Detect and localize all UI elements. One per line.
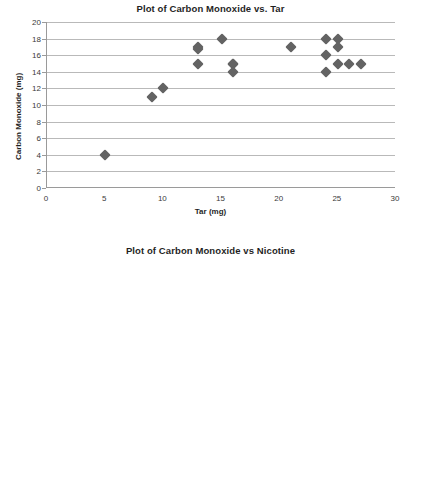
y-axis-tick-label: 6 bbox=[1, 134, 41, 143]
data-point-marker bbox=[99, 149, 110, 160]
y-axis-tick-mark bbox=[42, 72, 46, 73]
y-axis-tick-label: 20 bbox=[1, 18, 41, 27]
y-axis-tick-label: 16 bbox=[1, 51, 41, 60]
y-axis-tick-mark bbox=[42, 155, 46, 156]
x-axis-tick-label: 10 bbox=[147, 194, 177, 203]
data-point-marker bbox=[321, 66, 332, 77]
data-point-marker bbox=[146, 91, 157, 102]
y-axis-tick-label: 18 bbox=[1, 34, 41, 43]
gridline bbox=[47, 55, 395, 56]
chart1-x-axis-title: Tar (mg) bbox=[0, 207, 421, 216]
gridline bbox=[47, 22, 395, 23]
data-point-marker bbox=[332, 58, 343, 69]
y-axis-tick-label: 14 bbox=[1, 67, 41, 76]
y-axis-tick-label: 4 bbox=[1, 150, 41, 159]
chart2-title: Plot of Carbon Monoxide vs Nicotine bbox=[0, 245, 421, 256]
x-axis-tick-label: 20 bbox=[264, 194, 294, 203]
data-point-marker bbox=[355, 58, 366, 69]
gridline bbox=[47, 88, 395, 89]
data-point-marker bbox=[344, 58, 355, 69]
y-axis-tick-mark bbox=[42, 39, 46, 40]
chart1-plot-area bbox=[46, 22, 395, 188]
y-axis-tick-label: 8 bbox=[1, 117, 41, 126]
y-axis-tick-mark bbox=[42, 138, 46, 139]
data-point-marker bbox=[193, 58, 204, 69]
chart-carbon-monoxide-vs-tar: Plot of Carbon Monoxide vs. Tar Tar (mg)… bbox=[0, 0, 421, 240]
gridline bbox=[47, 105, 395, 106]
y-axis-tick-mark bbox=[42, 122, 46, 123]
y-axis-tick-label: 0 bbox=[1, 184, 41, 193]
y-axis-tick-mark bbox=[42, 88, 46, 89]
y-axis-tick-mark bbox=[42, 22, 46, 23]
gridline bbox=[47, 72, 395, 73]
gridline bbox=[47, 138, 395, 139]
data-point-marker bbox=[216, 33, 227, 44]
data-point-marker bbox=[321, 33, 332, 44]
chart1-title: Plot of Carbon Monoxide vs. Tar bbox=[0, 3, 421, 14]
data-point-marker bbox=[158, 83, 169, 94]
gridline bbox=[47, 122, 395, 123]
y-axis-tick-label: 10 bbox=[1, 101, 41, 110]
chart-carbon-monoxide-vs-nicotine: Plot of Carbon Monoxide vs Nicotine Nico… bbox=[0, 240, 421, 487]
y-axis-tick-mark bbox=[42, 55, 46, 56]
data-point-marker bbox=[286, 41, 297, 52]
x-axis-tick-label: 15 bbox=[206, 194, 236, 203]
x-axis-tick-label: 0 bbox=[31, 194, 61, 203]
y-axis-tick-label: 12 bbox=[1, 84, 41, 93]
y-axis-tick-label: 2 bbox=[1, 167, 41, 176]
x-axis-tick-label: 30 bbox=[380, 194, 410, 203]
x-axis-tick-label: 5 bbox=[89, 194, 119, 203]
data-point-marker bbox=[321, 50, 332, 61]
x-axis-tick-label: 25 bbox=[322, 194, 352, 203]
y-axis-tick-mark bbox=[42, 105, 46, 106]
data-point-marker bbox=[227, 66, 238, 77]
y-axis-tick-mark bbox=[42, 188, 46, 189]
y-axis-tick-mark bbox=[42, 171, 46, 172]
gridline bbox=[47, 171, 395, 172]
data-point-marker bbox=[332, 41, 343, 52]
